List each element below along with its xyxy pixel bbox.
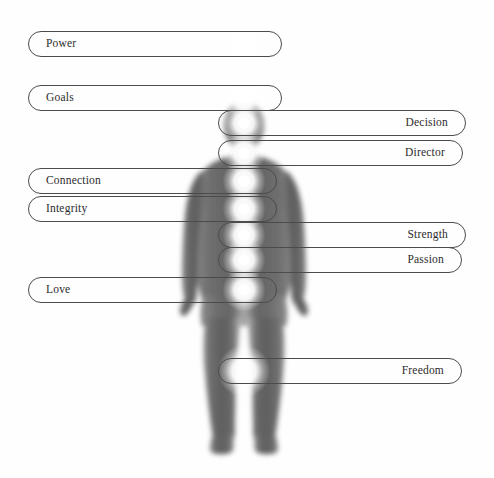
diagram-canvas: PowerGoalsDecisionDirectorConnectionInte… <box>0 0 494 478</box>
label-pill-text: Connection <box>29 175 101 187</box>
label-pill-text: Passion <box>407 254 461 266</box>
label-pill-text: Power <box>29 38 76 50</box>
label-pill-text: Strength <box>407 229 465 241</box>
label-pill-text: Freedom <box>402 365 461 377</box>
label-pill-text: Goals <box>29 92 74 104</box>
label-pill-text: Integrity <box>29 203 87 215</box>
label-pill-text: Director <box>405 147 462 159</box>
label-pill-passion[interactable]: Passion <box>218 247 462 273</box>
label-pill-integrity[interactable]: Integrity <box>28 196 277 222</box>
label-pill-text: Decision <box>406 117 465 129</box>
label-pill-director[interactable]: Director <box>218 140 463 166</box>
label-pill-strength[interactable]: Strength <box>218 222 466 248</box>
label-pill-connection[interactable]: Connection <box>28 168 277 194</box>
label-pill-love[interactable]: Love <box>28 277 277 303</box>
label-pill-power[interactable]: Power <box>28 31 282 57</box>
label-pill-decision[interactable]: Decision <box>218 110 466 136</box>
label-pill-text: Love <box>29 284 70 296</box>
label-pill-goals[interactable]: Goals <box>28 85 282 111</box>
label-pill-freedom[interactable]: Freedom <box>218 358 462 384</box>
